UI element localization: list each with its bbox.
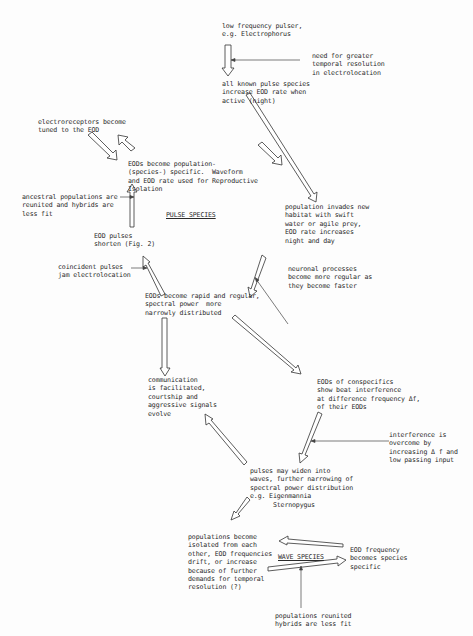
node-populations-reunited-hybrids: populations reunited hybrids are less fi… (275, 612, 351, 629)
label-wave-species: WAVE SPECIES (278, 553, 324, 561)
arrow-n11-to-n13 (232, 315, 301, 374)
node-population-invades-habitat: population invades new habitat with swif… (285, 203, 369, 245)
node-low-frequency-pulser: low frequency pulser, e.g. Electrophorus (222, 22, 302, 39)
arrow-n15-to-n12 (205, 414, 247, 465)
arrow-n17-to-n16 (279, 536, 343, 547)
node-pulses-widen-into-waves: pulses may widen into waves, further nar… (250, 467, 353, 509)
node-beat-interference: EODs of conspecifics show beat interfere… (317, 378, 420, 412)
arrow-n15-to-n16 (231, 497, 250, 520)
node-eod-pulses-shorten: EOD pulses shorten (Fig. 2) (94, 232, 155, 249)
node-interference-overcome: interference is overcome by increasing Δ… (389, 431, 458, 465)
node-neuronal-processes: neuronal processes become more regular a… (288, 265, 372, 290)
node-coincident-pulses: coincident pulses jam electrolocation (58, 263, 131, 280)
node-eods-rapid-regular: EODs become rapid and regular, spectral … (145, 292, 260, 317)
arrow-n7-to-n11 (248, 255, 266, 297)
node-pulse-rate-increase: all known pulse species increase EOD rat… (222, 80, 310, 105)
node-temporal-resolution-need: need for greater temporal resolution in … (312, 52, 385, 77)
arrow-n13-to-n15 (299, 412, 322, 463)
label-pulse-species: PULSE SPECIES (166, 211, 216, 219)
evolution-flow-diagram: low frequency pulser, e.g. Electrophorus… (0, 0, 473, 636)
node-eod-frequency-species-specific: EOD frequency becomes species specific (350, 546, 407, 571)
node-population-specific-eods: EODs become population- (species-) speci… (128, 160, 258, 194)
arrow-n5-to-n4 (118, 135, 135, 151)
node-communication-facilitated: communication is facilitated, courtship … (148, 376, 217, 418)
arrow-n11-to-n12 (160, 318, 170, 376)
node-ancestral-populations-reunited: ancestral populations are reunited and h… (22, 193, 118, 218)
node-electroreceptors-tuned: electroreceptors become tuned to the EOD (38, 118, 126, 135)
pointer-n10 (256, 279, 288, 324)
node-populations-isolated: populations become isolated from each ot… (188, 533, 272, 592)
arrow-n11-to-n8 (143, 256, 165, 296)
arrow-n4-to-n5 (88, 132, 117, 160)
